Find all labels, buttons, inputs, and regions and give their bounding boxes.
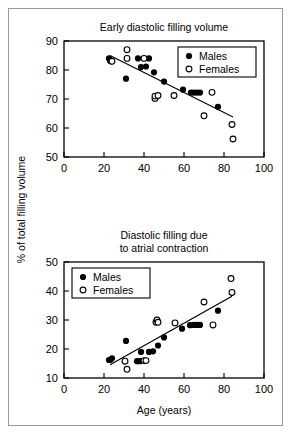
chart-title-2: to atrial contraction: [120, 242, 209, 254]
x-tick-label: 60: [178, 383, 190, 395]
chart-title-2: Diastolic filling due: [121, 229, 208, 241]
data-point-females: [230, 136, 236, 142]
data-point-males: [123, 76, 129, 82]
data-point-males: [150, 348, 156, 354]
data-point-males: [135, 55, 141, 61]
x-tick-label: 20: [98, 162, 110, 174]
data-point-females: [141, 56, 147, 62]
y-tick-label: 60: [46, 122, 58, 134]
y-tick-label: 90: [46, 35, 58, 47]
data-point-males: [197, 322, 203, 328]
data-point-males: [161, 334, 167, 340]
data-point-females: [229, 122, 235, 128]
legend-label-males: Males: [199, 50, 227, 62]
data-point-females: [155, 93, 161, 99]
regression-line: [110, 296, 232, 364]
data-point-females: [209, 89, 215, 95]
data-point-males: [197, 90, 203, 96]
x-tick-label: 100: [255, 162, 273, 174]
data-point-females: [124, 47, 130, 53]
legend-marker-females: [186, 66, 192, 72]
legend-marker-males: [80, 274, 86, 280]
x-axis-title: Age (years): [137, 404, 191, 416]
x-tick-label: 0: [61, 383, 67, 395]
two-panel-scatter-figure: Early diastolic filling volume0204060801…: [9, 9, 282, 425]
data-point-males: [143, 63, 149, 69]
data-point-males: [109, 355, 115, 361]
y-axis-title: % of total filling volume: [15, 156, 27, 264]
legend-label-females: Females: [199, 63, 239, 75]
x-tick-label: 40: [138, 162, 150, 174]
x-tick-label: 0: [61, 162, 67, 174]
data-point-females: [155, 319, 161, 325]
x-tick-label: 40: [138, 383, 150, 395]
x-tick-label: 100: [255, 383, 273, 395]
data-point-females: [109, 58, 115, 64]
data-point-females: [124, 56, 130, 62]
y-tick-label: 80: [46, 64, 58, 76]
legend-marker-females: [80, 287, 86, 293]
data-point-males: [151, 69, 157, 75]
y-tick-label: 50: [46, 256, 58, 268]
y-tick-label: 50: [46, 151, 58, 163]
data-point-males: [215, 104, 221, 110]
data-point-females: [143, 358, 149, 364]
data-point-males: [155, 342, 161, 348]
data-point-males: [215, 308, 221, 314]
x-tick-label: 80: [218, 383, 230, 395]
data-point-females: [124, 366, 130, 372]
data-point-females: [201, 299, 207, 305]
data-point-males: [180, 87, 186, 93]
y-tick-label: 30: [46, 314, 58, 326]
y-tick-label: 70: [46, 93, 58, 105]
data-point-males: [161, 79, 167, 85]
data-point-females: [122, 358, 128, 364]
y-tick-label: 20: [46, 343, 58, 355]
x-tick-label: 20: [98, 383, 110, 395]
data-point-males: [123, 338, 129, 344]
data-point-males: [179, 326, 185, 332]
data-point-females: [210, 322, 216, 328]
data-point-females: [201, 113, 207, 119]
legend-label-males: Males: [93, 271, 121, 283]
data-point-females: [229, 290, 235, 296]
x-tick-label: 60: [178, 162, 190, 174]
legend-label-females: Females: [93, 284, 133, 296]
data-point-females: [172, 320, 178, 326]
y-tick-label: 10: [46, 372, 58, 384]
data-point-females: [171, 93, 177, 99]
data-point-females: [228, 276, 234, 282]
data-point-males: [138, 349, 144, 355]
chart-title-1: Early diastolic filling volume: [100, 21, 229, 33]
chart-panel-1: [64, 41, 264, 157]
x-tick-label: 80: [218, 162, 230, 174]
legend-marker-males: [186, 53, 192, 59]
figure-panel: Early diastolic filling volume0204060801…: [8, 8, 283, 426]
y-tick-label: 40: [46, 285, 58, 297]
